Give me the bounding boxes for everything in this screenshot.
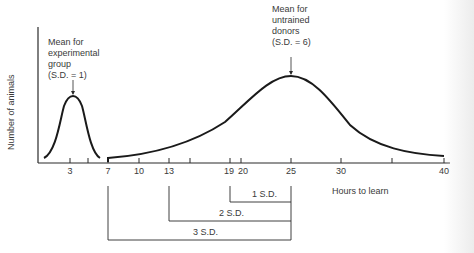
tick-label-13: 13 (164, 166, 174, 176)
annotation-line: Mean for (272, 4, 311, 15)
tick-label-10: 10 (134, 166, 144, 176)
arrow-head-donors-icon (289, 71, 293, 75)
experimental-curve (44, 96, 100, 158)
bracket-label-1sd: 1 S.D. (252, 189, 277, 200)
tick-label-40: 40 (439, 166, 449, 176)
tick-label-19: 19 (224, 166, 234, 176)
tick-label-30: 30 (336, 166, 346, 176)
tick-label-25: 25 (286, 166, 296, 176)
annotation-donors: Mean for untrained donors (S.D. = 6) (272, 4, 311, 48)
annotation-line: untrained (272, 15, 311, 26)
bracket-label-3sd: 3 S.D. (193, 227, 218, 238)
annotation-experimental: Mean for experimental group (S.D. = 1) (48, 37, 100, 81)
tick-label-7: 7 (105, 166, 110, 176)
page-edge-shadow (444, 0, 474, 253)
tick-label-20: 20 (238, 166, 248, 176)
annotation-line: group (48, 59, 100, 70)
tick-label-3: 3 (67, 166, 72, 176)
annotation-line: (S.D. = 6) (272, 37, 311, 48)
annotation-line: Mean for (48, 37, 100, 48)
annotation-line: (S.D. = 1) (48, 70, 100, 81)
x-axis-label: Hours to learn (332, 186, 389, 197)
annotation-line: donors (272, 26, 311, 37)
arrow-head-experimental-icon (71, 91, 75, 95)
y-axis-label: Number of animals (6, 74, 16, 150)
annotation-line: experimental (48, 48, 100, 59)
x-ticks (70, 158, 444, 163)
donors-curve (108, 76, 444, 162)
bracket-label-2sd: 2 S.D. (219, 208, 244, 219)
